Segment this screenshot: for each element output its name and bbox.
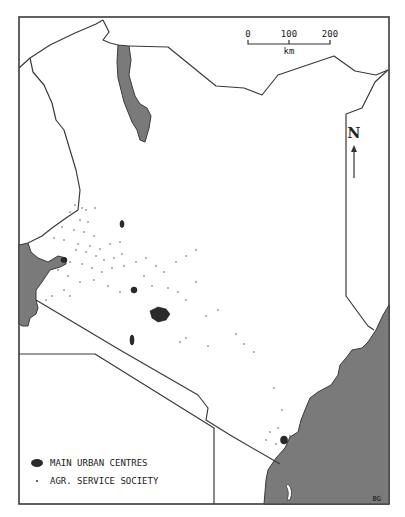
kenya-map: 0 100 200 km N MAIN URBAN CENTRES AGR. S… [0, 0, 405, 517]
agr-service-dot [269, 431, 271, 433]
agr-service-dot [273, 387, 275, 389]
agr-service-dot [289, 435, 291, 437]
urban-centre-machakos [130, 335, 134, 345]
agr-service-dot [195, 249, 197, 251]
agr-service-dot [265, 439, 267, 441]
scale-tick-100: 100 [281, 29, 297, 39]
agr-service-dot [185, 337, 187, 339]
agr-service-dot [207, 345, 209, 347]
agr-service-dot [145, 257, 147, 259]
agr-service-dot [111, 267, 113, 269]
agr-service-dot [79, 281, 81, 283]
legend-urban-label: MAIN URBAN CENTRES [50, 458, 148, 468]
scale-tick-0: 0 [245, 29, 250, 39]
agr-service-dot [107, 285, 109, 287]
scale-unit: km [284, 46, 295, 56]
agr-service-dot [155, 265, 157, 267]
agr-service-dot [57, 269, 59, 271]
agr-service-dot [119, 241, 121, 243]
agr-service-dot [135, 261, 137, 263]
agr-service-dot [253, 351, 255, 353]
agr-service-dot [205, 315, 207, 317]
agr-service-dot [85, 251, 87, 253]
agr-service-dot [143, 275, 145, 277]
agr-service-dot [281, 409, 283, 411]
agr-service-dot [243, 343, 245, 345]
agr-service-dot [123, 265, 125, 267]
map-credit: BG [373, 495, 381, 503]
agr-service-dot [74, 204, 76, 206]
agr-service-dot [93, 279, 95, 281]
urban-centre-eldoret [120, 221, 124, 228]
scale-tick-200: 200 [322, 29, 338, 39]
agr-service-dot [109, 243, 111, 245]
agr-service-dot [95, 255, 97, 257]
agr-service-dot [94, 207, 96, 209]
agr-service-dot [77, 243, 79, 245]
agr-service-dot [235, 333, 237, 335]
urban-centre-kisumu [131, 287, 137, 293]
urban-centre-kisii [61, 258, 67, 263]
agr-service-dot [119, 291, 121, 293]
agr-service-dot [275, 443, 277, 445]
agr-service-dot [63, 239, 65, 241]
legend-dot-label: AGR. SERVICE SOCIETY [50, 476, 159, 486]
agr-service-dot [81, 207, 83, 209]
legend-urban-symbol-icon [31, 459, 43, 467]
agr-service-dot [103, 259, 105, 261]
agr-service-dot [91, 267, 93, 269]
agr-service-dot [85, 209, 87, 211]
agr-service-dot [67, 275, 69, 277]
agr-service-dot [79, 219, 81, 221]
agr-service-dot [69, 295, 71, 297]
agr-service-dot [69, 211, 71, 213]
agr-service-dot [69, 261, 71, 263]
agr-service-dot [93, 235, 95, 237]
agr-service-dot [277, 427, 279, 429]
agr-service-dot [179, 341, 181, 343]
north-label: N [348, 125, 361, 141]
agr-service-dot [45, 299, 47, 301]
agr-service-dot [175, 261, 177, 263]
agr-service-dot [87, 221, 89, 223]
legend-dot-symbol-icon [36, 480, 38, 482]
agr-service-dot [75, 249, 77, 251]
agr-service-dot [53, 237, 55, 239]
agr-service-dot [163, 271, 165, 273]
agr-service-dot [61, 226, 63, 228]
agr-service-dot [63, 289, 65, 291]
agr-service-dot [99, 248, 101, 250]
agr-service-dot [167, 287, 169, 289]
agr-service-dot [185, 255, 187, 257]
agr-service-dot [195, 281, 197, 283]
agr-service-dot [177, 291, 179, 293]
agr-service-dot [185, 299, 187, 301]
agr-service-dot [81, 263, 83, 265]
agr-service-dot [83, 231, 85, 233]
agr-service-dot [217, 309, 219, 311]
agr-service-dot [113, 257, 115, 259]
agr-service-dot [51, 295, 53, 297]
agr-service-dot [101, 271, 103, 273]
agr-service-dot [151, 285, 153, 287]
agr-service-dot [121, 253, 123, 255]
agr-service-dot [73, 229, 75, 231]
agr-service-dot [89, 245, 91, 247]
urban-centre-mombasa [281, 436, 288, 444]
